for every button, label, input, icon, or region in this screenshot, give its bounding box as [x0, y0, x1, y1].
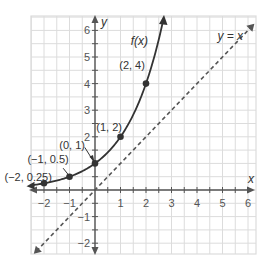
- x-tick-label: −1: [63, 197, 76, 209]
- arrow-icon: [34, 246, 42, 254]
- x-tick-label: 6: [245, 197, 251, 209]
- x-tick-label: 3: [168, 197, 174, 209]
- point-label: (1, 2): [96, 121, 122, 133]
- y-axis-label: y: [100, 15, 108, 29]
- point-label: (−2, 0.25): [4, 171, 51, 183]
- point-label: (−1, 0.5): [27, 153, 68, 165]
- exponential-graph: −2−1123456−2−123456 xyy = xf(x)(−2, 0.25…: [0, 0, 268, 264]
- data-point: [92, 160, 99, 167]
- y-tick-label: 3: [84, 104, 90, 116]
- y-tick-label: −2: [77, 237, 90, 249]
- y-tick-label: 6: [84, 24, 90, 36]
- data-point: [66, 173, 73, 180]
- x-tick-label: 4: [194, 197, 200, 209]
- annotations: xyy = xf(x)(−2, 0.25)(−1, 0.5)(0, 1)(1, …: [4, 15, 255, 186]
- x-tick-label: −2: [38, 197, 51, 209]
- identity-line-label: y = x: [216, 29, 244, 43]
- x-tick-label: 5: [219, 197, 225, 209]
- y-tick-label: 4: [84, 78, 90, 90]
- axes: [29, 15, 255, 255]
- data-point: [143, 80, 150, 87]
- grid: [31, 16, 256, 254]
- x-tick-label: 1: [117, 197, 123, 209]
- data-point: [117, 134, 124, 141]
- point-label: (2, 4): [119, 59, 145, 71]
- y-tick-label: −1: [77, 211, 90, 223]
- point-label: (0, 1): [59, 139, 85, 151]
- x-axis-label: x: [247, 172, 255, 186]
- plot-lines: [27, 15, 255, 254]
- y-tick-label: 5: [84, 51, 90, 63]
- x-tick-label: 2: [143, 197, 149, 209]
- curve-label: f(x): [131, 34, 148, 48]
